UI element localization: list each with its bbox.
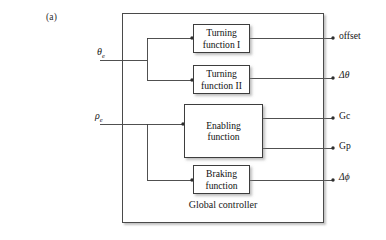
input-label-theta-e: θe — [97, 46, 105, 59]
terminal-dot-dphi — [331, 178, 334, 181]
terminal-dot-dtheta — [331, 76, 334, 79]
block-turning-function-2-line1: Turning — [206, 68, 237, 79]
block-turning-function-1-line2: function I — [203, 39, 241, 50]
block-turning-function-2[interactable]: Turning function II — [193, 65, 250, 94]
block-turning-function-1-line1: Turning — [206, 27, 237, 38]
block-enabling-function[interactable]: Enabling function — [184, 104, 263, 158]
input-label-theta-e-subscript: e — [102, 52, 105, 59]
output-label-delta-phi: Δϕ — [339, 171, 350, 182]
block-braking-function-line1: Braking — [206, 168, 237, 179]
block-turning-function-1[interactable]: Turning function I — [193, 24, 250, 53]
output-label-gc: Gc — [339, 110, 350, 121]
block-turning-function-2-line2: function II — [201, 80, 242, 91]
figure-block-diagram: (a) — [0, 0, 386, 240]
terminal-dot-offset — [331, 36, 334, 39]
block-braking-function-line2: function — [206, 180, 238, 191]
block-braking-function[interactable]: Braking function — [193, 165, 250, 194]
block-enabling-function-line1: Enabling — [206, 120, 241, 131]
input-label-rho-e: ρe — [95, 110, 103, 123]
output-label-offset: offset — [339, 30, 361, 41]
output-label-delta-theta: Δθ — [339, 69, 349, 80]
output-label-gp: Gp — [339, 140, 351, 151]
block-enabling-function-line2: function — [208, 131, 240, 142]
global-controller-caption: Global controller — [122, 199, 324, 210]
terminal-dot-gp — [331, 146, 334, 149]
terminal-dot-gc — [331, 116, 334, 119]
input-label-rho-e-subscript: e — [100, 116, 103, 123]
